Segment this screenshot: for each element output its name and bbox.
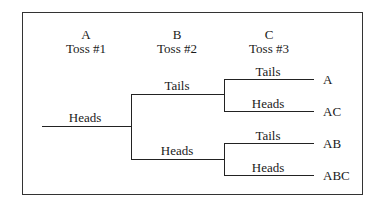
column-b-label: Toss #2: [157, 42, 197, 56]
outcome-4: ABC: [323, 169, 350, 183]
split-level3-top: [224, 79, 225, 111]
column-c-label: Toss #3: [249, 42, 289, 56]
branch-l3-4: [224, 175, 314, 176]
branch-l2-heads: [131, 159, 224, 160]
split-level2: [131, 94, 132, 159]
branch-l2-tails: [131, 94, 224, 95]
column-a-letter: A: [81, 28, 90, 42]
column-b-letter: B: [173, 28, 182, 42]
branch-l3-2-label: Heads: [252, 97, 285, 111]
branch-l2-tails-label: Tails: [164, 79, 189, 93]
outcome-3: AB: [323, 137, 341, 151]
outcome-1: A: [323, 73, 332, 87]
branch-l3-3: [224, 143, 314, 144]
branch-l3-1-label: Tails: [255, 65, 280, 79]
branch-l3-4-label: Heads: [252, 161, 285, 175]
branch-l3-1: [224, 79, 314, 80]
branch-root-label: Heads: [69, 111, 102, 125]
column-c-letter: C: [265, 28, 274, 42]
branch-l3-2: [224, 111, 314, 112]
split-level3-bottom: [224, 143, 225, 175]
diagram-frame: [22, 12, 363, 195]
outcome-2: AC: [323, 105, 341, 119]
branch-root: [42, 126, 131, 127]
branch-l2-heads-label: Heads: [161, 144, 194, 158]
column-a-label: Toss #1: [66, 42, 106, 56]
branch-l3-3-label: Tails: [255, 129, 280, 143]
